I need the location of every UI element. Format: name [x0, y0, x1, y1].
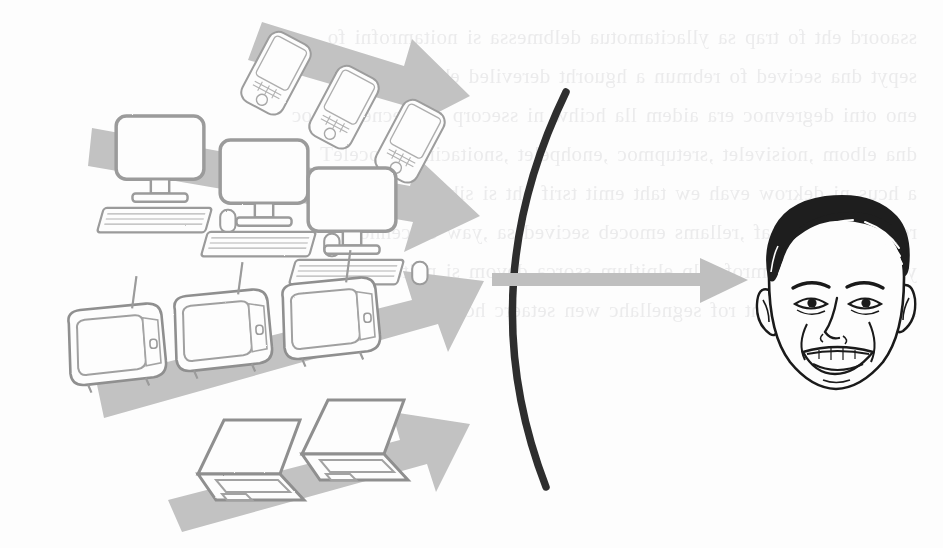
convergence-figure [0, 0, 943, 548]
arrow-to-viewer [492, 258, 748, 303]
lens-arc [512, 92, 566, 487]
scanned-figure-page: ssaoord eht fo trap sa yllacitamotua del… [0, 0, 943, 548]
device-group-desktops [97, 116, 428, 284]
viewer-face [757, 195, 915, 389]
